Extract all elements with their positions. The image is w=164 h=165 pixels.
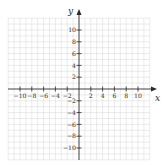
y-tick-label: 10	[68, 26, 76, 33]
x-tick-label: 6	[112, 92, 116, 99]
y-axis-label: y	[67, 6, 74, 16]
y-tick-label: −2	[67, 97, 76, 104]
x-tick-label: −10	[13, 92, 26, 99]
y-tick-label: 2	[72, 73, 76, 80]
y-axis-arrow-icon	[77, 9, 82, 15]
x-axis-arrow-icon	[151, 87, 157, 92]
y-tick-label: 8	[72, 38, 76, 45]
x-tick-label: −4	[51, 92, 60, 99]
x-tick-label: 4	[101, 92, 105, 99]
x-tick-label: 8	[124, 92, 128, 99]
x-tick-label: 2	[89, 92, 93, 99]
y-tick-label: −4	[67, 109, 76, 116]
x-tick-label: 10	[134, 92, 142, 99]
y-tick-label: −8	[67, 132, 76, 139]
coordinate-plane: −10−8−6−4−2246810108642−2−4−6−8−10 x y	[0, 0, 164, 165]
x-axis-label: x	[155, 93, 160, 103]
axes	[8, 9, 157, 160]
x-tick-label: −6	[39, 92, 48, 99]
y-tick-label: −6	[67, 121, 76, 128]
y-tick-label: −10	[63, 144, 76, 151]
y-tick-label: 4	[72, 62, 76, 69]
x-tick-label: −8	[27, 92, 36, 99]
y-tick-label: 6	[72, 50, 76, 57]
